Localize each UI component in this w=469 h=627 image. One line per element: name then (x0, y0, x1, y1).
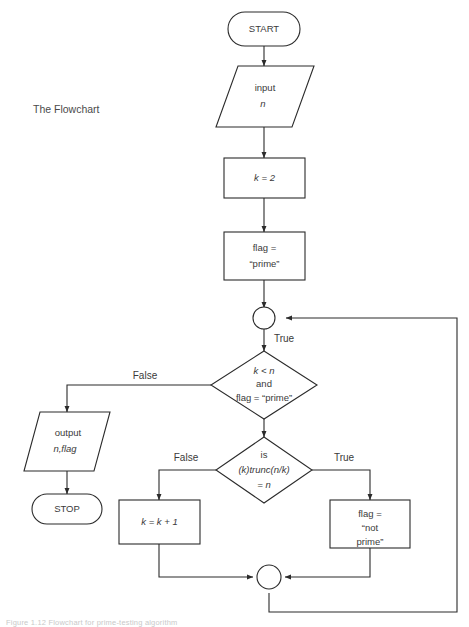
node-set-not-prime-line3: prime” (357, 536, 384, 547)
node-stop: STOP (32, 494, 102, 524)
edge-increment-to-merge (159, 544, 253, 577)
figure-caption: Figure 1.12 Flowchart for prime-testing … (6, 618, 178, 627)
node-input-line2: n (260, 98, 265, 109)
node-output: output n,flag (24, 412, 110, 471)
edge-label-loop-true: True (274, 333, 295, 344)
edge-loop-false-to-output (67, 385, 211, 412)
node-decision-loop: k < n and flag = “prime” (211, 351, 317, 419)
flowchart-figure: START input n k = 2 flag = “prime” k < n… (0, 0, 469, 627)
node-decision-loop-line2: and (256, 378, 272, 389)
node-set-not-prime: flag = “not prime” (330, 500, 410, 548)
edge-notprime-to-merge (285, 548, 370, 577)
node-init-flag: flag = “prime” (224, 232, 305, 280)
edge-divides-false-to-increment (159, 470, 216, 500)
node-init-flag-line1: flag = (253, 242, 277, 253)
node-output-line2: n,flag (53, 443, 77, 454)
node-decision-divides-line2: (k)trunc(n/k) (238, 464, 289, 475)
node-start-label: START (249, 23, 279, 34)
node-set-not-prime-line1: flag = (358, 508, 382, 519)
node-set-not-prime-line2: “not (362, 522, 379, 533)
node-increment-k-label: k = k + 1 (141, 516, 177, 527)
figure-side-label: The Flowchart (33, 103, 100, 115)
node-loop-connector (253, 307, 275, 329)
node-stop-label: STOP (54, 503, 80, 514)
edge-label-divides-true: True (334, 452, 355, 463)
flowchart-canvas: START input n k = 2 flag = “prime” k < n… (0, 0, 469, 627)
node-input: input n (216, 66, 314, 127)
node-init-flag-line2: “prime” (249, 258, 279, 269)
node-increment-k: k = k + 1 (119, 500, 200, 544)
node-decision-divides: is (k)trunc(n/k) = n (216, 437, 312, 503)
node-init-k: k = 2 (224, 158, 305, 198)
node-merge-connector (257, 565, 281, 589)
edge-label-divides-false: False (174, 452, 199, 463)
node-output-line1: output (55, 427, 82, 438)
node-decision-divides-line1: is (261, 449, 268, 460)
node-start: START (228, 12, 300, 46)
node-init-k-label: k = 2 (254, 172, 276, 183)
edge-label-loop-false: False (133, 370, 158, 381)
node-decision-loop-line1: k < n (254, 365, 275, 376)
node-decision-divides-line3: = n (257, 479, 270, 490)
edge-divides-true-to-notprime (312, 470, 370, 500)
node-input-line1: input (255, 82, 276, 93)
node-decision-loop-line3: flag = “prime” (236, 392, 292, 403)
